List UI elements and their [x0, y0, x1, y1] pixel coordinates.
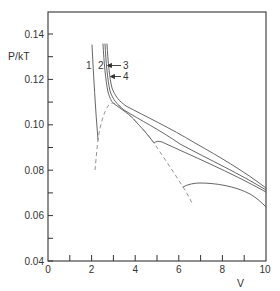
- x-axis-label: V: [237, 277, 244, 289]
- pv-isotherm-chart: 0.04 0.06 0.08 0.10 0.12 0.14 0 2 4 6 8 …: [0, 0, 280, 291]
- x-tick-label: 8: [220, 264, 226, 275]
- x-tick-label: 0: [45, 264, 51, 275]
- x-tick-labels: 0 2 4 6 8 10: [45, 264, 271, 275]
- x-tick-label: 2: [89, 264, 95, 275]
- arrow-head-icon: [111, 75, 115, 79]
- y-axis-ticks: [48, 34, 53, 261]
- curve-label-4: 4: [123, 71, 129, 82]
- curve-low-branch: [183, 183, 266, 207]
- y-tick-labels: 0.04 0.06 0.08 0.10 0.12 0.14: [25, 29, 45, 267]
- y-tick-label: 0.14: [25, 29, 45, 40]
- x-tick-label: 6: [176, 264, 182, 275]
- x-tick-label: 10: [259, 264, 271, 275]
- curve-label-3: 3: [123, 60, 129, 71]
- y-tick-label: 0.04: [25, 256, 45, 267]
- y-tick-label: 0.12: [25, 74, 45, 85]
- curve-label-1: 1: [86, 60, 92, 71]
- curve-label-2: 2: [98, 60, 104, 71]
- y-axis-label: P/kT: [8, 50, 30, 62]
- y-tick-label: 0.08: [25, 165, 45, 176]
- y-tick-label: 0.10: [25, 119, 45, 130]
- x-tick-label: 4: [132, 264, 138, 275]
- y-tick-label: 0.06: [25, 210, 45, 221]
- dashed-boundary-curve: [95, 103, 193, 205]
- x-axis-ticks: [70, 255, 244, 261]
- curve-4: [105, 44, 266, 190]
- plot-frame: [48, 12, 266, 261]
